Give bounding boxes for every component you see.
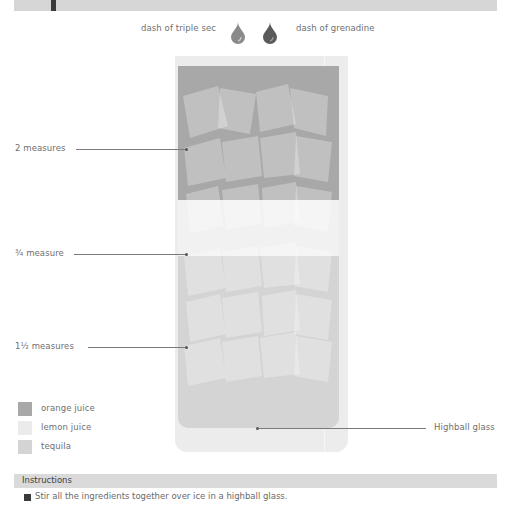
leader-line-tequila — [88, 347, 186, 348]
legend-swatch-orange-juice — [18, 402, 32, 416]
legend-swatch-tequila — [18, 440, 32, 454]
measure-label-lemon-juice: ¾ measure — [15, 248, 64, 258]
measure-label-orange-juice: 2 measures — [15, 143, 66, 153]
header-mark — [51, 0, 56, 11]
leader-dot-tequila — [185, 346, 188, 349]
legend-swatch-lemon-juice — [18, 421, 32, 435]
drink-liquid — [178, 66, 339, 428]
leader-line-lemon-juice — [74, 254, 186, 255]
ice-cubes — [178, 66, 339, 428]
legend-label-orange-juice: orange juice — [41, 403, 95, 413]
leader-dot-orange-juice — [185, 148, 188, 151]
instructions-title: Instructions — [22, 475, 72, 485]
instructions-header-bar — [14, 474, 497, 488]
grenadine-label: dash of grenadine — [296, 23, 375, 33]
leader-line-glass — [258, 428, 426, 429]
step-text: Stir all the ingredients together over i… — [35, 491, 287, 501]
leader-line-orange-juice — [76, 149, 186, 150]
triple-sec-label: dash of triple sec — [141, 23, 216, 33]
header-bar — [14, 0, 497, 11]
leader-dot-lemon-juice — [185, 253, 188, 256]
triple-sec-drop-icon — [230, 22, 246, 44]
measure-label-tequila: 1½ measures — [15, 341, 74, 351]
grenadine-drop-icon — [262, 22, 278, 44]
legend-label-tequila: tequila — [41, 441, 71, 451]
legend-label-lemon-juice: lemon juice — [41, 422, 91, 432]
step-number-badge — [24, 494, 31, 501]
glass-label: Highball glass — [434, 422, 495, 432]
